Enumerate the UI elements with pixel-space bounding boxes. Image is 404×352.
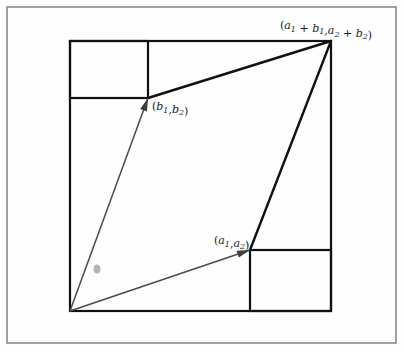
ink-smudge xyxy=(94,264,101,273)
figure-background xyxy=(0,0,404,352)
figure-root: (a1 + b1,a2 + b2) (b1,b2) (a1,a2) xyxy=(0,0,404,352)
vector-addition-diagram: (a1 + b1,a2 + b2) (b1,b2) (a1,a2) xyxy=(0,0,404,352)
